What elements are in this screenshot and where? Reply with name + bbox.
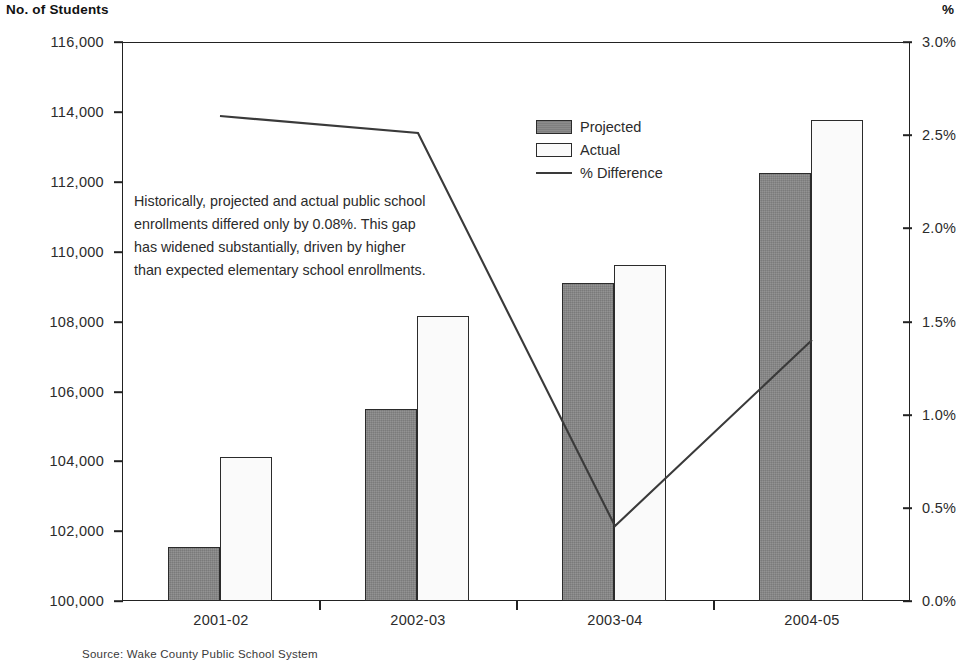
y-left-tick-label: 114,000 <box>0 104 104 120</box>
left-axis-title: No. of Students <box>6 2 109 17</box>
right-axis-title: % <box>942 2 954 17</box>
bar-projected-2002-03 <box>365 409 417 601</box>
y-left-tick-mark <box>114 111 123 113</box>
legend-item-percent-difference: % Difference <box>536 162 663 183</box>
x-axis-label-2004-05: 2004-05 <box>784 612 839 628</box>
x-tick-mark <box>516 601 518 610</box>
y-right-tick-label: 0.5% <box>922 500 968 516</box>
enrollment-chart: No. of Students % 100,000 102,000 104,00… <box>0 0 968 672</box>
legend-item-projected: Projected <box>536 116 663 137</box>
y-left-tick-label: 116,000 <box>0 34 104 50</box>
y-right-tick-mark <box>903 414 912 416</box>
y-left-tick-label: 104,000 <box>0 453 104 469</box>
x-tick-mark <box>319 601 321 610</box>
y-right-tick-mark <box>903 600 912 602</box>
bar-actual-2004-05 <box>811 120 863 601</box>
y-left-tick-label: 110,000 <box>0 244 104 260</box>
x-axis-label-2003-04: 2003-04 <box>587 612 642 628</box>
legend-swatch-actual-icon <box>536 143 572 157</box>
y-right-tick-label: 1.5% <box>922 314 968 330</box>
bar-actual-2002-03 <box>417 316 469 601</box>
y-left-tick-mark <box>114 600 123 602</box>
legend-label-actual: Actual <box>580 142 620 158</box>
legend-swatch-projected-icon <box>536 120 572 134</box>
legend: Projected Actual % Difference <box>536 116 663 185</box>
source-note: Source: Wake County Public School System <box>82 648 318 660</box>
chart-annotation: Historically, projected and actual publi… <box>134 190 434 282</box>
bar-actual-2003-04 <box>614 265 666 601</box>
y-left-tick-mark <box>114 181 123 183</box>
legend-label-projected: Projected <box>580 119 641 135</box>
y-left-tick-label: 112,000 <box>0 174 104 190</box>
y-left-tick-label: 108,000 <box>0 314 104 330</box>
x-tick-mark <box>713 601 715 610</box>
y-left-tick-label: 106,000 <box>0 384 104 400</box>
bar-projected-2001-02 <box>168 547 220 601</box>
y-right-tick-mark <box>903 227 912 229</box>
legend-label-percent-difference: % Difference <box>580 165 663 181</box>
y-left-tick-mark <box>114 460 123 462</box>
x-axis-label-2002-03: 2002-03 <box>390 612 445 628</box>
y-right-tick-label: 2.0% <box>922 220 968 236</box>
legend-swatch-line-icon <box>536 166 572 180</box>
y-left-tick-label: 100,000 <box>0 593 104 609</box>
y-right-tick-mark <box>903 321 912 323</box>
y-right-tick-label: 1.0% <box>922 407 968 423</box>
bar-actual-2001-02 <box>220 457 272 601</box>
y-right-tick-label: 0.0% <box>922 593 968 609</box>
y-right-tick-label: 2.5% <box>922 127 968 143</box>
y-right-tick-mark <box>903 41 912 43</box>
y-left-tick-mark <box>114 251 123 253</box>
x-axis-label-2001-02: 2001-02 <box>193 612 248 628</box>
y-left-tick-mark <box>114 41 123 43</box>
y-right-tick-mark <box>903 507 912 509</box>
y-left-tick-mark <box>114 321 123 323</box>
bar-projected-2004-05 <box>759 173 811 601</box>
bar-projected-2003-04 <box>562 283 614 601</box>
y-right-tick-mark <box>903 134 912 136</box>
y-left-tick-label: 102,000 <box>0 523 104 539</box>
y-left-tick-mark <box>114 391 123 393</box>
legend-item-actual: Actual <box>536 139 663 160</box>
y-right-tick-label: 3.0% <box>922 34 968 50</box>
y-left-tick-mark <box>114 530 123 532</box>
